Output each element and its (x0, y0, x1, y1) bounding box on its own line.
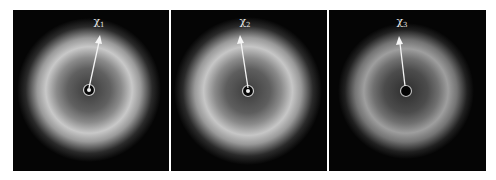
diffraction-panel-3: χ3 (329, 10, 486, 171)
label-symbol: χ (239, 15, 246, 28)
beam-center-dot (246, 89, 250, 93)
diffraction-panel-2: χ2 (171, 10, 327, 171)
label-symbol: χ (396, 15, 403, 28)
label-symbol: χ (93, 15, 100, 28)
panel-label-3: χ3 (396, 16, 407, 31)
diffraction-pattern-2 (171, 10, 327, 171)
label-subscript: 3 (403, 21, 407, 29)
panel-label-2: χ2 (239, 16, 250, 31)
label-subscript: 1 (100, 21, 104, 29)
diffraction-panel-1: χ1 (13, 10, 169, 171)
panel-label-1: χ1 (93, 16, 104, 31)
beamstop (401, 86, 412, 97)
beam-center-dot (87, 88, 91, 92)
label-subscript: 2 (246, 21, 250, 29)
diffraction-pattern-3 (329, 10, 486, 171)
diffraction-pattern-1 (13, 10, 169, 171)
